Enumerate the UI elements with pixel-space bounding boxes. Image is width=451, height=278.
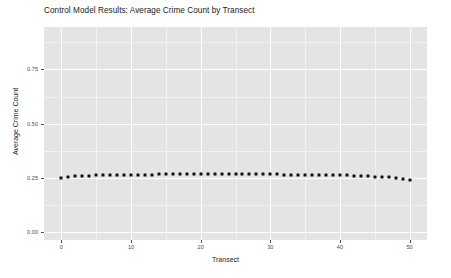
- x-axis-title: Transect: [0, 256, 451, 263]
- x-tick-mark: [131, 240, 132, 243]
- x-tick-label: 50: [398, 244, 422, 250]
- x-tick-label: 40: [328, 244, 352, 250]
- x-tick-mark: [61, 240, 62, 243]
- x-tick-mark: [340, 240, 341, 243]
- y-axis-ticks: 0.000.250.500.75: [0, 0, 451, 278]
- x-tick-mark: [410, 240, 411, 243]
- y-tick-mark: [41, 232, 44, 233]
- x-tick-mark: [270, 240, 271, 243]
- y-tick-mark: [41, 178, 44, 179]
- x-tick-label: 0: [49, 244, 73, 250]
- y-tick-label: 0.00: [8, 229, 38, 235]
- y-tick-mark: [41, 124, 44, 125]
- x-tick-label: 30: [258, 244, 282, 250]
- chart-container: Control Model Results: Average Crime Cou…: [0, 0, 451, 278]
- x-tick-label: 20: [189, 244, 213, 250]
- y-tick-mark: [41, 69, 44, 70]
- x-tick-label: 10: [119, 244, 143, 250]
- y-axis-title: Average Crime Count: [12, 62, 19, 182]
- x-tick-mark: [201, 240, 202, 243]
